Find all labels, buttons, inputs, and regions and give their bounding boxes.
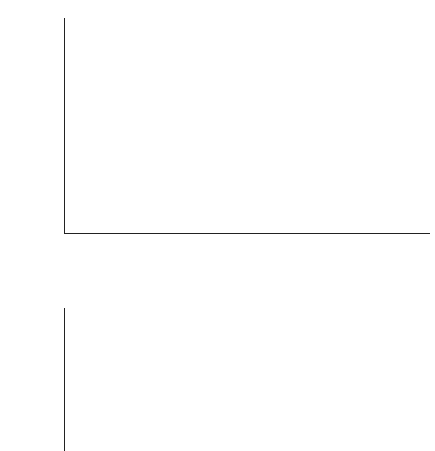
plot-area-bottom	[0, 300, 435, 451]
figure-independent-candidates	[0, 0, 435, 451]
chart-proportion	[0, 300, 435, 451]
chart-average-vote-share	[0, 0, 435, 255]
plot-area-top	[0, 0, 435, 255]
